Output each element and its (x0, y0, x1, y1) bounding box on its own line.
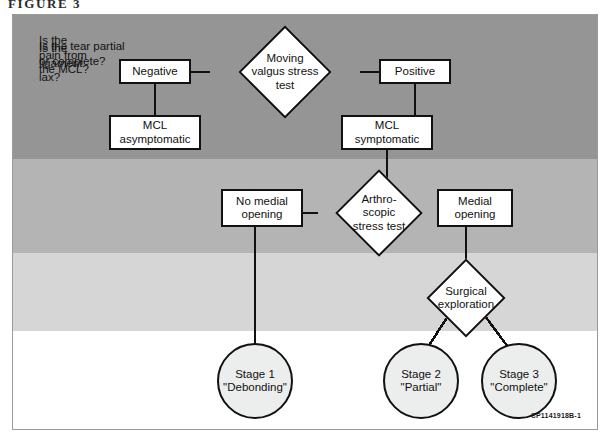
node-arthroscopic-stress-test[interactable]: Arthro- scopic stress test (317, 177, 441, 249)
node-negative-label: Negative (132, 65, 177, 79)
node-moving-valgus-stress-test[interactable]: Moving valgus stress test (209, 35, 361, 109)
artwork-code: CP1141918B-1 (531, 412, 581, 419)
node-surgical-exploration[interactable]: Surgical exploration (405, 265, 527, 331)
node-mcl-symptomatic-label: MCL symptomatic (355, 119, 420, 146)
node-surgical-exploration-label: Surgical exploration (438, 285, 494, 312)
node-medial-opening-label: Medial opening (455, 195, 496, 222)
figure-caption: FIGURE 3 (8, 0, 81, 12)
node-positive[interactable]: Positive (379, 59, 451, 84)
node-mcl-symptomatic[interactable]: MCL symptomatic (341, 115, 433, 150)
node-no-medial-opening-label: No medial opening (236, 195, 288, 222)
node-medial-opening[interactable]: Medial opening (437, 189, 513, 227)
node-mcl-asymptomatic[interactable]: MCL asymptomatic (109, 115, 201, 150)
node-stage-3-label: Stage 3 "Complete" (490, 368, 547, 395)
node-stage-3-complete[interactable]: Stage 3 "Complete" (481, 343, 557, 419)
node-stage-1-debonding[interactable]: Stage 1 "Debonding" (217, 343, 293, 419)
node-stage-1-label: Stage 1 "Debonding" (223, 368, 287, 395)
node-stage-2-partial[interactable]: Stage 2 "Partial" (383, 343, 459, 419)
node-no-medial-opening[interactable]: No medial opening (221, 189, 303, 227)
node-stage-2-label: Stage 2 "Partial" (401, 368, 442, 395)
node-arthroscopic-stress-test-label: Arthro- scopic stress test (353, 193, 405, 234)
figure-frame: Is the pain from the MCL? Is the ligamen… (12, 14, 598, 430)
node-positive-label: Positive (395, 65, 435, 79)
node-negative[interactable]: Negative (119, 59, 191, 84)
node-mcl-asymptomatic-label: MCL asymptomatic (120, 119, 191, 146)
node-moving-valgus-stress-test-label: Moving valgus stress test (251, 52, 318, 93)
